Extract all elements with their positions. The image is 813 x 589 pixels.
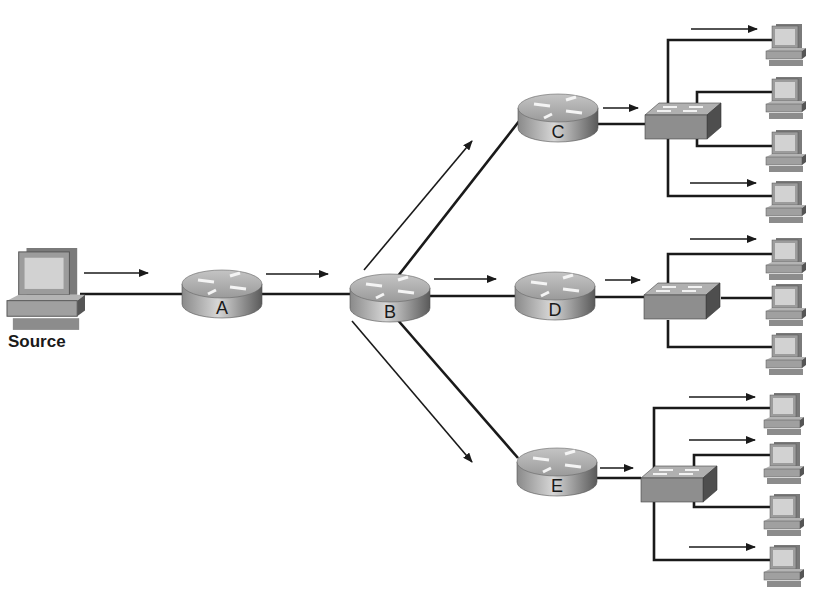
link-b-e [396, 318, 518, 458]
router-b-label: B [384, 302, 396, 322]
link-b-c [398, 120, 520, 276]
network-diagram: A B C D E Source [0, 0, 813, 589]
switch-e-icon [641, 466, 717, 502]
router-a-label: A [216, 298, 228, 318]
host-e3-icon [764, 494, 804, 536]
host-d1-icon [766, 238, 806, 280]
host-c4-icon [766, 181, 806, 223]
host-e2-icon [764, 442, 804, 484]
host-c1-icon [766, 24, 806, 66]
host-e1-icon [764, 393, 804, 435]
router-d-label: D [549, 300, 562, 320]
source-computer-icon [7, 248, 85, 330]
host-c2-icon [766, 77, 806, 119]
source-label: Source [8, 332, 66, 352]
host-c3-icon [766, 130, 806, 172]
host-e4-icon [764, 545, 804, 587]
host-d3-icon [766, 333, 806, 375]
switch-c-icon [645, 103, 721, 139]
router-e-label: E [551, 476, 563, 496]
router-c-label: C [552, 122, 565, 142]
host-d2-icon [766, 284, 806, 326]
switch-d-icon [644, 283, 720, 319]
arrow-b-e [352, 321, 472, 462]
